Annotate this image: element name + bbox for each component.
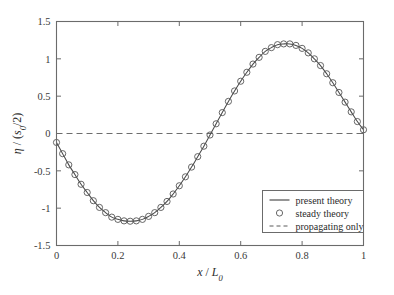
y-axis-label: η / (s0/2) bbox=[10, 113, 28, 155]
svg-text:0.2: 0.2 bbox=[111, 250, 124, 261]
svg-text:-1: -1 bbox=[42, 203, 51, 214]
svg-text:0.4: 0.4 bbox=[173, 250, 187, 261]
x-axis-tick-labels: 00.20.40.60.81 bbox=[54, 250, 366, 261]
svg-text:1.5: 1.5 bbox=[37, 16, 50, 27]
svg-text:-1.5: -1.5 bbox=[34, 240, 51, 251]
svg-text:1: 1 bbox=[45, 54, 50, 65]
svg-text:x / L0: x / L0 bbox=[196, 265, 223, 283]
svg-text:0.5: 0.5 bbox=[37, 91, 50, 102]
svg-text:1: 1 bbox=[361, 250, 366, 261]
wave-profile-chart: 00.20.40.60.81 -1.5-1-0.500.511.5 x / L0… bbox=[0, 0, 394, 295]
x-axis-label: x / L0 bbox=[196, 265, 223, 283]
svg-text:present theory: present theory bbox=[296, 195, 353, 206]
svg-text:propagating only: propagating only bbox=[296, 221, 364, 232]
svg-text:0: 0 bbox=[45, 128, 50, 139]
chart-legend: present theorysteady theorypropagating o… bbox=[263, 191, 364, 233]
svg-text:0.6: 0.6 bbox=[234, 250, 247, 261]
chart-figure: 00.20.40.60.81 -1.5-1-0.500.511.5 x / L0… bbox=[0, 0, 394, 295]
svg-text:η / (s0/2): η / (s0/2) bbox=[10, 113, 28, 155]
y-axis-tick-labels: -1.5-1-0.500.511.5 bbox=[34, 16, 51, 251]
svg-text:steady theory: steady theory bbox=[296, 208, 350, 219]
svg-text:0: 0 bbox=[54, 250, 59, 261]
svg-text:0.8: 0.8 bbox=[296, 250, 309, 261]
svg-text:-0.5: -0.5 bbox=[34, 166, 51, 177]
